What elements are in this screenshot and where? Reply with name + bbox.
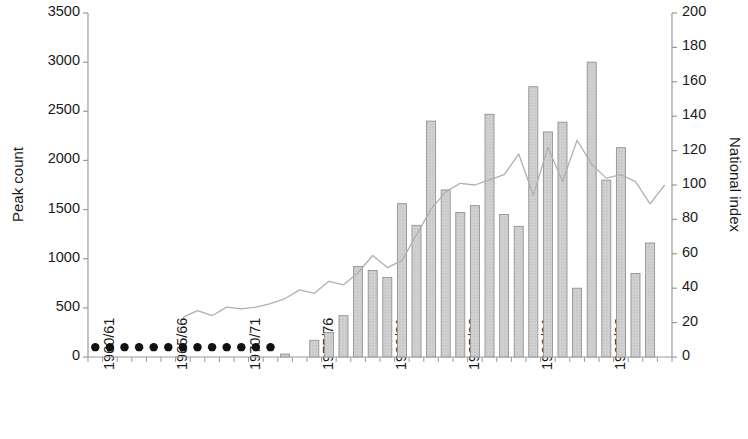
bar (616, 148, 625, 357)
bar (339, 316, 348, 357)
data-point-dot (252, 343, 260, 351)
bar (587, 62, 596, 357)
data-point-dot (223, 343, 231, 351)
bar-series (281, 62, 655, 357)
bar (310, 340, 319, 357)
data-point-dot (237, 343, 245, 351)
dot-series (91, 343, 275, 351)
bar (500, 214, 509, 357)
chart-root: Peak count National index 05001000150020… (0, 0, 748, 439)
data-point-dot (150, 343, 158, 351)
bar (281, 354, 290, 357)
bar (324, 332, 333, 357)
bar (368, 271, 377, 357)
chart-plot-area (0, 0, 748, 439)
bar (470, 206, 479, 357)
bar (354, 267, 363, 357)
bar (383, 277, 392, 357)
bar (543, 132, 552, 357)
data-point-dot (179, 343, 187, 351)
bar (558, 122, 567, 357)
bar (529, 87, 538, 357)
bar (427, 121, 436, 357)
data-point-dot (91, 343, 99, 351)
data-point-dot (164, 343, 172, 351)
bar (441, 190, 450, 357)
bar (514, 226, 523, 357)
bar (631, 273, 640, 357)
bar (485, 114, 494, 357)
bar (602, 180, 611, 357)
data-point-dot (193, 343, 201, 351)
data-point-dot (106, 343, 114, 351)
bar (412, 225, 421, 357)
data-point-dot (120, 343, 128, 351)
data-point-dot (208, 343, 216, 351)
bar (573, 288, 582, 357)
bar (397, 204, 406, 357)
bar (646, 243, 655, 357)
bar (456, 213, 465, 357)
data-point-dot (135, 343, 143, 351)
data-point-dot (266, 343, 274, 351)
